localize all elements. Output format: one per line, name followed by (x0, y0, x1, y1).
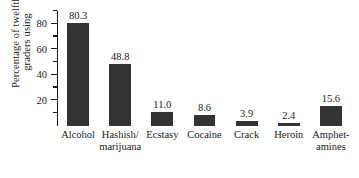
x-axis-category-label: Heroin (268, 129, 310, 141)
bar-group: 48.8 (109, 11, 131, 126)
bar (236, 121, 258, 126)
bar-value-label: 48.8 (111, 51, 129, 62)
y-axis-tick-label: 60 (37, 43, 48, 54)
bar-group: 8.6 (194, 11, 216, 126)
bars-layer: 80.348.811.08.63.92.415.6 (57, 11, 352, 126)
bar-value-label: 3.9 (240, 108, 253, 119)
y-axis-title-line-2: graders using (21, 13, 32, 71)
plot-area: 20406080 80.348.811.08.63.92.415.6 (57, 11, 352, 126)
bar (151, 112, 173, 126)
y-axis-tick-label: 80 (37, 18, 48, 29)
y-axis-tick-label: 20 (37, 94, 48, 105)
x-axis-category-label: Alcohol (57, 129, 99, 141)
bar-group: 80.3 (67, 11, 89, 126)
bar-group: 11.0 (151, 11, 173, 126)
y-axis-title-line-1: Percentage of twelfth (9, 0, 20, 88)
bar-value-label: 2.4 (282, 110, 295, 121)
bar-group: 15.6 (320, 11, 342, 126)
x-axis-category-label: Crack (226, 129, 268, 141)
bar (67, 23, 89, 126)
x-axis-labels: AlcoholHashish/ marijuanaEcstasyCocaineC… (57, 129, 352, 175)
bar (109, 64, 131, 126)
bar (194, 115, 216, 126)
y-axis-tick-label: 40 (37, 69, 48, 80)
bar-group: 2.4 (278, 11, 300, 126)
y-axis-title: Percentage of twelfth graders using (6, 0, 36, 105)
bar-value-label: 80.3 (69, 10, 87, 21)
bar-value-label: 8.6 (198, 102, 211, 113)
bar-group: 3.9 (236, 11, 258, 126)
bar (320, 106, 342, 126)
bar-value-label: 15.6 (322, 93, 340, 104)
bar (278, 123, 300, 126)
x-axis-category-label: Hashish/ marijuana (99, 129, 141, 153)
bar-value-label: 11.0 (153, 99, 171, 110)
bar-chart: Percentage of twelfth graders using 2040… (0, 0, 359, 178)
x-axis-category-label: Amphet- amines (310, 129, 352, 153)
x-axis-category-label: Cocaine (183, 129, 225, 141)
x-axis-category-label: Ecstasy (141, 129, 183, 141)
